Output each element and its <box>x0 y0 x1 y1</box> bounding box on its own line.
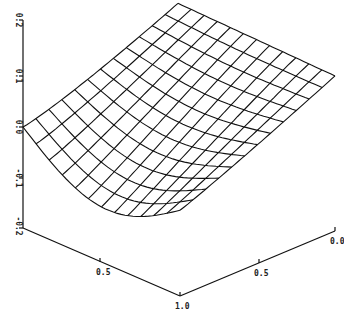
mesh-line-u <box>62 22 217 175</box>
mesh-line-u <box>102 40 257 207</box>
z-tick-neg-0.1: -0.1 <box>14 168 23 187</box>
y-tick-0.5: 0.5 <box>254 269 269 278</box>
wireframe-mesh <box>23 3 335 216</box>
mesh-line-u <box>49 15 204 160</box>
x-axis <box>23 228 180 296</box>
x-tick-1.0: 1.0 <box>175 302 190 311</box>
mesh-line-u <box>115 46 270 213</box>
z-tick-neg-0.2: -0.2 <box>14 216 23 235</box>
mesh-line-v <box>62 100 219 179</box>
mesh-line-v <box>178 3 335 76</box>
z-tick-0.2: 0.2 <box>14 13 23 28</box>
mesh-line-v <box>75 90 232 168</box>
mesh-line-u <box>128 52 283 216</box>
mesh-line-v <box>113 58 270 133</box>
mesh-line-v <box>88 79 245 155</box>
mesh-line-v <box>165 15 322 88</box>
z-tick-0.0: 0.0 <box>14 120 23 135</box>
y-axis <box>180 227 335 296</box>
x-tick-0.5: 0.5 <box>96 268 111 277</box>
surface-plot: 0.2 0.1 0.0 -0.1 -0.2 0.5 1.0 0.5 0.0 <box>0 0 344 316</box>
y-tick-0.0: 0.0 <box>330 237 344 246</box>
mesh-line-u <box>36 9 191 143</box>
z-tick-0.1: 0.1 <box>14 69 23 84</box>
